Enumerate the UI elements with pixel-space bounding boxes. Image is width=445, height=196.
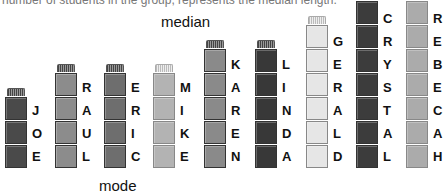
letter-label: I [282,76,291,99]
cube-column [204,40,226,168]
cube-stack-joe: JOE [5,91,45,168]
cube-stack-eric: ERIC [104,68,144,168]
cube-block [153,145,175,168]
cube-block [255,73,277,96]
cube-block [5,145,27,168]
letter-label: E [333,53,343,76]
letter-label: E [32,145,42,168]
cube-block [104,121,126,144]
cube-column [306,16,328,168]
cube-block [104,145,126,168]
cube-block [204,121,226,144]
letter-label: L [383,145,392,168]
letter-label: R [433,7,442,30]
letter-label: R [333,76,343,99]
cube-stack-rebecah: REBECAH [406,0,445,168]
letter-label: A [231,76,240,99]
letter-label: L [282,53,291,76]
cube-column [104,64,126,168]
cube-block [55,73,77,96]
cube-block [306,145,328,168]
cube-block [406,49,428,72]
letter-label: R [82,76,91,99]
name-letters: CRYSTAL [383,7,392,168]
cube-stack-crystal: CRYSTAL [356,0,396,168]
cube-block [153,73,175,96]
letter-label: A [333,99,343,122]
cube-block [204,145,226,168]
letter-label: I [180,99,191,122]
letter-label: N [282,99,291,122]
cube-block [356,121,378,144]
letter-label: O [32,122,42,145]
cube-block [104,97,126,120]
letter-label: A [282,145,291,168]
letter-label: K [180,122,191,145]
cube-block [104,73,126,96]
name-letters: GERALD [333,30,343,168]
cube-block [356,73,378,96]
cube-block [153,121,175,144]
cube-stack-mike: MIKE [153,68,193,168]
name-letters: RAUL [82,76,91,168]
cube-column [153,64,175,168]
cube-block [55,121,77,144]
letter-label: S [383,76,392,99]
mode-label: mode [99,177,137,194]
cube-block [356,49,378,72]
letter-label: A [82,99,91,122]
cube-block [356,1,378,24]
cube-block [356,145,378,168]
cube-block [306,25,328,48]
letter-label: E [131,76,140,99]
letter-label: T [383,99,392,122]
cube-column [406,0,428,168]
median-label: median [161,13,210,30]
cube-block [255,145,277,168]
letter-label: K [231,53,240,76]
letter-label: L [82,145,91,168]
name-letters: KAREN [231,53,240,168]
letter-label: C [433,99,442,122]
letter-label: A [433,122,442,145]
cube-block [55,145,77,168]
name-letters: JOE [32,99,42,168]
letter-label: C [131,145,140,168]
cube-block [406,97,428,120]
cube-stack-linda: LINDA [255,45,295,168]
cube-column [5,88,27,168]
letter-label: E [180,145,191,168]
cube-cap-icon [7,88,25,96]
letter-label: R [383,30,392,53]
cube-column [55,64,77,168]
letter-label: E [231,122,240,145]
cube-block [406,25,428,48]
cube-block [55,97,77,120]
letter-label: G [333,30,343,53]
cube-block [306,97,328,120]
cube-column [356,0,378,168]
cube-block [153,97,175,120]
letter-label: H [433,145,442,168]
cube-stack-karen: KAREN [204,45,244,168]
cube-block [406,145,428,168]
letter-label: R [231,99,240,122]
cube-block [255,97,277,120]
name-letters: MIKE [180,76,191,168]
letter-label: C [383,7,392,30]
cube-block [5,121,27,144]
caption-text: number of students in the group, represe… [2,0,337,7]
cube-cap-icon [155,64,173,72]
cube-cap-icon [57,64,75,72]
cube-block [204,49,226,72]
cube-block [406,73,428,96]
cube-stack-raul: RAUL [55,68,95,168]
letter-label: R [131,99,140,122]
letter-label: A [383,122,392,145]
cube-block [5,97,27,120]
name-letters: REBECAH [433,7,442,168]
cube-block [406,1,428,24]
letter-label: L [333,122,343,145]
cube-cap-icon [257,40,275,48]
cube-column [255,40,277,168]
